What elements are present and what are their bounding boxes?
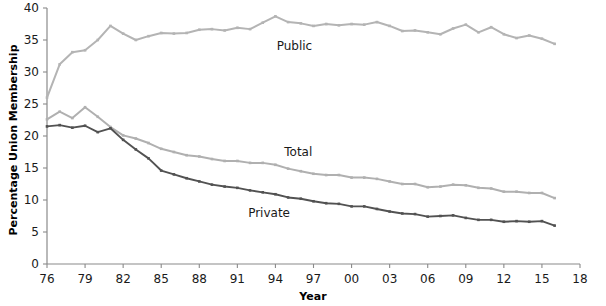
data-point-marker <box>515 37 518 40</box>
data-point-marker <box>477 187 480 190</box>
data-point-marker <box>477 219 480 222</box>
data-point-marker <box>325 174 328 177</box>
series-label-total: Total <box>283 145 312 159</box>
data-point-marker <box>185 154 188 157</box>
data-point-marker <box>439 215 442 218</box>
data-point-marker <box>376 178 379 181</box>
y-axis-title: Percentage Union Membership <box>7 44 20 235</box>
data-point-marker <box>84 124 87 127</box>
data-point-marker <box>46 96 49 99</box>
data-point-marker <box>147 157 150 160</box>
data-point-marker <box>223 185 226 188</box>
data-point-marker <box>274 15 277 18</box>
data-point-marker <box>249 162 252 165</box>
y-tick-label: 10 <box>24 193 39 207</box>
data-point-marker <box>58 124 61 127</box>
data-point-marker <box>223 29 226 32</box>
data-point-marker <box>71 51 74 54</box>
data-point-marker <box>350 205 353 208</box>
data-point-marker <box>312 200 315 203</box>
data-point-marker <box>414 29 417 32</box>
series-public <box>46 15 556 99</box>
data-point-marker <box>426 186 429 189</box>
data-point-marker <box>452 183 455 186</box>
x-tick-label: 82 <box>116 272 131 286</box>
data-point-marker <box>274 164 277 167</box>
data-point-marker <box>553 43 556 46</box>
x-tick-label: 79 <box>77 272 92 286</box>
data-point-marker <box>325 23 328 26</box>
data-point-marker <box>211 183 214 186</box>
data-point-marker <box>122 134 125 137</box>
data-point-marker <box>249 28 252 31</box>
data-point-marker <box>122 32 125 35</box>
x-axis: 767982858891949700030609121518 <box>39 264 587 286</box>
data-point-marker <box>274 193 277 196</box>
data-point-marker <box>350 23 353 26</box>
data-point-marker <box>325 202 328 205</box>
x-tick-label: 06 <box>420 272 435 286</box>
data-point-marker <box>58 110 61 113</box>
series-label-private: Private <box>248 206 290 220</box>
data-point-marker <box>261 162 264 165</box>
data-point-marker <box>541 37 544 40</box>
x-tick-label: 91 <box>230 272 245 286</box>
data-point-marker <box>338 24 341 27</box>
y-tick-label: 5 <box>31 225 39 239</box>
data-point-marker <box>464 217 467 220</box>
y-tick-label: 15 <box>24 161 39 175</box>
y-axis: 0510152025303540 <box>24 1 47 271</box>
series-label-public: Public <box>277 39 313 53</box>
data-point-marker <box>109 127 112 130</box>
data-point-marker <box>96 116 99 119</box>
y-tick-label: 35 <box>24 33 39 47</box>
data-point-marker <box>185 32 188 35</box>
data-point-marker <box>312 25 315 28</box>
data-point-marker <box>350 176 353 179</box>
x-tick-label: 88 <box>192 272 207 286</box>
data-point-marker <box>376 21 379 24</box>
data-point-marker <box>388 25 391 28</box>
data-point-marker <box>46 125 49 128</box>
data-point-marker <box>287 196 290 199</box>
x-tick-label: 85 <box>154 272 169 286</box>
data-point-marker <box>96 39 99 42</box>
data-point-marker <box>223 160 226 163</box>
x-tick-label: 09 <box>458 272 473 286</box>
data-point-marker <box>173 32 176 35</box>
data-point-marker <box>198 155 201 158</box>
data-point-marker <box>414 183 417 186</box>
data-point-marker <box>490 219 493 222</box>
data-point-marker <box>401 212 404 215</box>
data-point-marker <box>503 33 506 36</box>
data-point-marker <box>503 220 506 223</box>
data-point-marker <box>401 30 404 33</box>
x-axis-title: Year <box>298 290 327 303</box>
x-tick-label: 12 <box>496 272 511 286</box>
data-point-marker <box>464 184 467 187</box>
x-tick-label: 97 <box>306 272 321 286</box>
y-tick-label: 25 <box>24 97 39 111</box>
data-point-marker <box>414 213 417 216</box>
data-point-marker <box>135 137 138 140</box>
data-point-marker <box>401 183 404 186</box>
series-line <box>47 16 555 97</box>
data-point-marker <box>503 190 506 193</box>
data-point-marker <box>46 118 49 121</box>
data-point-marker <box>541 192 544 195</box>
data-point-marker <box>198 28 201 31</box>
data-point-marker <box>439 185 442 188</box>
data-point-marker <box>528 34 531 37</box>
data-point-marker <box>249 189 252 192</box>
data-point-marker <box>71 126 74 129</box>
data-point-marker <box>173 173 176 176</box>
data-point-marker <box>84 49 87 52</box>
data-point-marker <box>541 220 544 223</box>
data-point-marker <box>287 167 290 170</box>
data-point-marker <box>261 191 264 194</box>
data-point-marker <box>338 174 341 177</box>
data-point-marker <box>452 27 455 30</box>
data-point-marker <box>160 148 163 151</box>
data-point-marker <box>71 117 74 120</box>
data-point-marker <box>135 39 138 42</box>
